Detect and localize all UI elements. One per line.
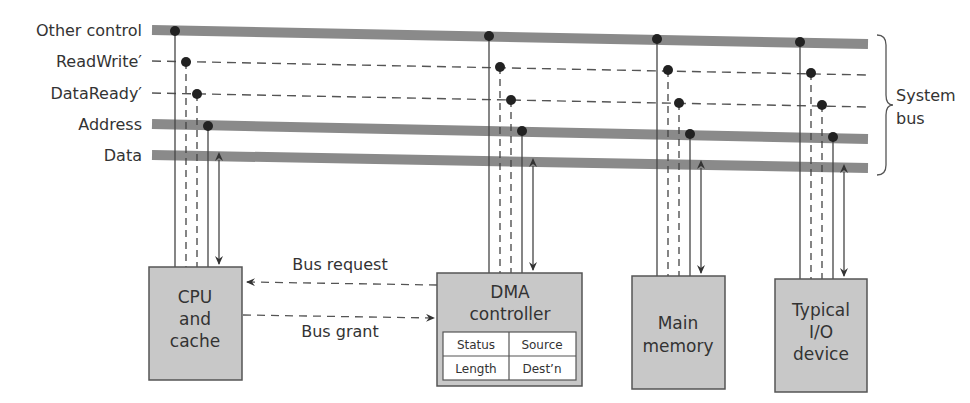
system-bus-brace [877, 35, 893, 175]
label-readwrite: ReadWrite′ [56, 52, 142, 71]
dma-label-1: DMA [490, 282, 530, 302]
system-bus-diagram: Other control ReadWrite′ DataReady′ Addr… [0, 0, 970, 403]
io-label-2: I/O [809, 322, 833, 342]
dma-register-destn: Dest’n [523, 362, 562, 376]
io-device-box: Typical I/O device [775, 279, 867, 392]
memory-label-1: Main [658, 313, 699, 333]
label-address: Address [78, 115, 142, 134]
cpu-connections [170, 26, 219, 267]
label-other-control: Other control [36, 21, 142, 40]
bus-grant-label: Bus grant [301, 322, 379, 341]
bus-other-control [152, 30, 868, 44]
cpu-label-3: cache [170, 331, 220, 351]
io-label-3: device [793, 344, 849, 364]
dma-label-2: controller [469, 304, 550, 324]
dma-connections [484, 31, 533, 273]
dma-register-status: Status [457, 338, 495, 352]
dma-box: DMA controller Status Source Length Dest… [437, 273, 582, 386]
bus-request-label: Bus request [292, 255, 387, 274]
system-bus-label-2: bus [896, 109, 925, 128]
bus-readwrite [152, 61, 868, 75]
cpu-label-1: CPU [178, 287, 213, 307]
bus-request-arrow [247, 282, 437, 285]
memory-connections [652, 34, 701, 276]
memory-label-2: memory [642, 336, 713, 356]
main-memory-box: Main memory [632, 276, 725, 389]
cpu-box: CPU and cache [149, 267, 242, 380]
bus-data [152, 155, 868, 168]
bus-grant-arrow [243, 315, 434, 318]
dma-register-source: Source [521, 338, 562, 352]
system-bus-label-1: System [896, 86, 956, 105]
label-data: Data [104, 146, 142, 165]
dma-register-length: Length [455, 362, 496, 376]
cpu-label-2: and [179, 309, 211, 329]
label-dataready: DataReady′ [50, 84, 142, 103]
bus-address [152, 124, 868, 139]
io-label-1: Typical [791, 300, 850, 320]
